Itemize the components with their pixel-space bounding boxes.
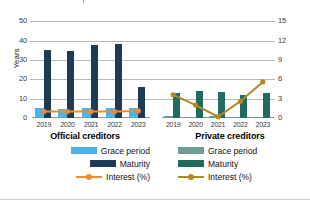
legend-label: Maturity — [208, 159, 238, 169]
x-axis-label: 2023 — [127, 121, 149, 128]
bar-group — [209, 2, 229, 118]
bar-group — [187, 2, 207, 118]
legend-item[interactable]: Interest (%) — [160, 170, 300, 183]
y-axis-right-tick: 15 — [278, 16, 302, 25]
y-axis-left-tick: 50 — [3, 16, 27, 25]
bar-group — [164, 2, 184, 118]
x-axis-label: 2021 — [207, 121, 229, 128]
bar-group — [106, 2, 126, 118]
bar-group — [231, 2, 251, 118]
legend-label: Interest (%) — [208, 172, 252, 182]
legend-rows-official: Grace periodMaturityInterest (%) — [16, 144, 154, 183]
legend-line-swatch — [178, 172, 204, 181]
chart-root: 01020304050 03691215 Years Interest (%) … — [0, 0, 310, 202]
y-axis-right-tick: 6 — [278, 74, 302, 83]
y-axis-left-tick: 10 — [3, 94, 27, 103]
x-axis-label: 2023 — [252, 121, 274, 128]
y-axis-right-tick: 0 — [278, 113, 302, 122]
y-axis-left-title: Years — [12, 48, 21, 68]
bar-maturity — [173, 93, 180, 118]
bar-maturity — [240, 95, 247, 118]
y-axis-right-tick: 3 — [278, 94, 302, 103]
bar-grace-period — [106, 108, 115, 118]
bar-grace-period — [254, 117, 263, 118]
legend-bar-swatch — [178, 160, 204, 167]
bar-group — [35, 2, 55, 118]
bar-grace-period — [58, 109, 67, 118]
legend-item[interactable]: Grace period — [16, 144, 154, 157]
bar-group — [129, 2, 149, 118]
y-axis-left-tick: 0 — [3, 113, 27, 122]
legend-rows-private: Grace periodMaturityInterest (%) — [160, 144, 300, 183]
legend-line-swatch — [76, 172, 102, 181]
bar-grace-period — [82, 108, 91, 118]
bar-maturity — [91, 45, 98, 118]
legend-label: Interest (%) — [106, 172, 150, 182]
x-axis-label: 2020 — [185, 121, 207, 128]
x-axis-label: 2021 — [80, 121, 102, 128]
bar-group — [82, 2, 102, 118]
bar-maturity — [196, 91, 203, 118]
x-axis-label: 2019 — [162, 121, 184, 128]
legend-title-official: Official creditors — [16, 131, 154, 141]
legend-label: Maturity — [120, 159, 150, 169]
bar-grace-period — [187, 117, 196, 118]
panel-official-creditors: 20192020202120222023 — [32, 2, 150, 118]
legend-item[interactable]: Interest (%) — [16, 170, 154, 183]
x-axis-label: 2022 — [104, 121, 126, 128]
legend-bar-swatch — [178, 147, 204, 154]
bar-grace-period — [129, 108, 138, 118]
legend-bar-swatch — [71, 147, 97, 154]
bar-grace-period — [35, 108, 44, 118]
legend-private-creditors: Private creditors Grace periodMaturityIn… — [160, 131, 300, 183]
x-axis-label: 2019 — [33, 121, 55, 128]
bar-maturity — [138, 87, 145, 118]
bar-grace-period — [231, 117, 240, 118]
legend-label: Grace period — [208, 146, 257, 156]
legend-item[interactable]: Grace period — [160, 144, 300, 157]
bar-grace-period — [164, 116, 173, 118]
legend-bar-swatch — [90, 160, 116, 167]
bottom-divider — [0, 199, 310, 200]
bar-maturity — [218, 92, 225, 118]
y-axis-left-tick: 20 — [3, 74, 27, 83]
panel-private-creditors: 20192020202120222023 — [162, 2, 274, 118]
bar-maturity — [263, 93, 270, 118]
bar-maturity — [44, 50, 51, 118]
y-axis-left-tick: 40 — [3, 36, 27, 45]
bar-maturity — [67, 51, 74, 118]
legend-item[interactable]: Maturity — [16, 157, 154, 170]
legend-label: Grace period — [101, 146, 150, 156]
x-axis-label: 2020 — [56, 121, 78, 128]
legend-item[interactable]: Maturity — [160, 157, 300, 170]
plot-area: 01020304050 03691215 Years Interest (%) … — [30, 2, 275, 118]
legend-title-private: Private creditors — [160, 131, 300, 141]
bar-grace-period — [209, 116, 218, 118]
legend-official-creditors: Official creditors Grace periodMaturityI… — [16, 131, 154, 183]
x-axis-label: 2022 — [229, 121, 251, 128]
bar-maturity — [115, 44, 122, 118]
y-axis-right-tick: 9 — [278, 55, 302, 64]
y-axis-right-tick: 12 — [278, 36, 302, 45]
bar-group — [254, 2, 274, 118]
bar-group — [58, 2, 78, 118]
